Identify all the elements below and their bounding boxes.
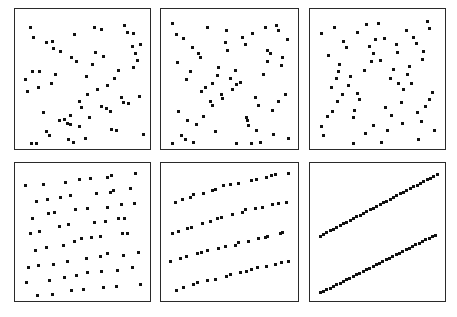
data-point bbox=[171, 142, 174, 145]
data-point bbox=[82, 288, 85, 291]
data-point bbox=[45, 130, 48, 133]
data-point bbox=[100, 28, 103, 31]
data-point bbox=[356, 31, 359, 34]
data-point bbox=[106, 206, 109, 209]
data-point bbox=[280, 261, 283, 264]
data-point bbox=[377, 22, 380, 25]
data-point bbox=[73, 33, 76, 36]
data-point bbox=[185, 255, 188, 258]
data-point bbox=[396, 51, 399, 54]
data-point bbox=[100, 270, 103, 273]
data-point bbox=[257, 237, 260, 240]
data-point bbox=[29, 26, 32, 29]
data-point bbox=[131, 266, 134, 269]
data-point bbox=[244, 208, 247, 211]
data-point bbox=[436, 173, 439, 176]
data-point bbox=[126, 31, 129, 34]
data-point bbox=[277, 100, 280, 103]
data-point bbox=[250, 179, 253, 182]
data-point bbox=[401, 122, 404, 125]
data-point bbox=[109, 110, 112, 113]
data-point bbox=[91, 63, 94, 66]
data-point bbox=[220, 216, 223, 219]
data-point bbox=[58, 119, 61, 122]
data-point bbox=[380, 141, 383, 144]
data-point bbox=[99, 235, 102, 238]
data-point bbox=[24, 184, 27, 187]
data-point bbox=[363, 69, 366, 72]
data-point bbox=[247, 124, 250, 127]
data-point bbox=[428, 98, 431, 101]
data-point bbox=[235, 142, 238, 145]
data-point bbox=[400, 101, 403, 104]
data-point bbox=[54, 73, 57, 76]
data-point bbox=[241, 36, 244, 39]
data-point bbox=[266, 49, 269, 52]
data-point bbox=[420, 120, 423, 123]
data-point bbox=[186, 227, 189, 230]
data-point bbox=[48, 279, 51, 282]
data-point bbox=[383, 37, 386, 40]
data-point bbox=[126, 232, 129, 235]
data-point bbox=[42, 111, 45, 114]
data-point bbox=[177, 110, 180, 113]
data-point bbox=[234, 244, 237, 247]
data-point bbox=[74, 208, 77, 211]
data-point bbox=[200, 90, 203, 93]
data-point bbox=[185, 78, 188, 81]
data-point bbox=[255, 129, 258, 132]
data-point bbox=[320, 32, 323, 35]
data-point bbox=[47, 212, 50, 215]
data-point bbox=[26, 90, 29, 93]
data-point bbox=[189, 70, 192, 73]
data-point bbox=[410, 82, 413, 85]
data-point bbox=[255, 178, 258, 181]
data-point bbox=[175, 289, 178, 292]
data-point bbox=[175, 33, 178, 36]
data-point bbox=[217, 247, 220, 250]
data-point bbox=[221, 97, 224, 100]
data-point bbox=[433, 129, 436, 132]
data-point bbox=[133, 202, 136, 205]
data-point bbox=[196, 281, 199, 284]
data-point bbox=[110, 174, 113, 177]
data-point bbox=[408, 65, 411, 68]
data-point bbox=[96, 88, 99, 91]
data-point bbox=[131, 45, 134, 48]
data-point bbox=[100, 105, 103, 108]
data-point bbox=[86, 271, 89, 274]
data-point bbox=[338, 63, 341, 66]
data-point bbox=[45, 41, 48, 44]
data-point bbox=[63, 118, 66, 121]
data-point bbox=[209, 100, 212, 103]
data-point bbox=[245, 270, 248, 273]
data-point bbox=[186, 119, 189, 122]
panel-5 bbox=[160, 162, 299, 302]
data-point bbox=[222, 184, 225, 187]
data-point bbox=[127, 102, 130, 105]
data-point bbox=[286, 38, 289, 41]
data-point bbox=[132, 32, 135, 35]
data-point bbox=[389, 77, 392, 80]
data-point bbox=[406, 73, 409, 76]
data-point bbox=[179, 257, 182, 260]
data-point bbox=[284, 93, 287, 96]
data-point bbox=[30, 142, 33, 145]
data-point bbox=[335, 77, 338, 80]
data-point bbox=[237, 241, 240, 244]
data-point bbox=[51, 293, 54, 296]
data-point bbox=[117, 217, 120, 220]
data-point bbox=[84, 137, 87, 140]
data-point bbox=[224, 245, 227, 248]
data-point bbox=[78, 125, 81, 128]
data-point bbox=[35, 142, 38, 145]
data-point bbox=[270, 174, 273, 177]
data-point bbox=[123, 217, 126, 220]
data-point bbox=[89, 177, 92, 180]
data-point bbox=[395, 43, 398, 46]
data-point bbox=[120, 96, 123, 99]
data-point bbox=[272, 133, 275, 136]
data-point bbox=[331, 110, 334, 113]
data-point bbox=[254, 207, 257, 210]
data-point bbox=[392, 68, 395, 71]
